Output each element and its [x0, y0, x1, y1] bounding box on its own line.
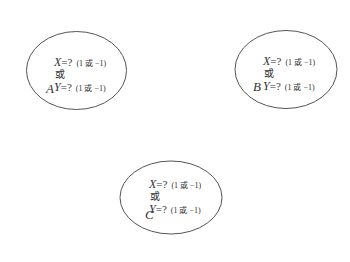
diagram-canvas: [0, 0, 350, 262]
value-hint: (1 或 −1): [171, 206, 201, 215]
node-b-label: B: [253, 79, 261, 95]
y-variable: Y: [263, 79, 270, 93]
node-c-label: C: [145, 207, 154, 223]
node-c-x-row: X=? (1 或 −1): [149, 177, 201, 191]
node-a-text: X=? (1 或 −1) 或 Y=? (1 或 −1): [54, 55, 106, 94]
or-text: 或: [150, 191, 201, 202]
equals-question: =?: [61, 81, 72, 93]
equals-question: =?: [156, 178, 167, 190]
node-c-y-row: Y=? (1 或 −1): [149, 202, 201, 216]
or-text: 或: [264, 68, 315, 79]
node-b-y-row: Y=? (1 或 −1): [263, 79, 315, 93]
value-hint: (1 或 −1): [285, 58, 315, 67]
node-c-text: X=? (1 或 −1) 或 Y=? (1 或 −1): [149, 177, 201, 216]
equals-question: =?: [270, 55, 281, 67]
node-b-text: X=? (1 或 −1) 或 Y=? (1 或 −1): [263, 54, 315, 93]
node-a-label: A: [46, 81, 54, 97]
equals-question: =?: [61, 56, 72, 68]
value-hint: (1 或 −1): [171, 181, 201, 190]
y-variable: Y: [54, 80, 61, 94]
node-a-x-row: X=? (1 或 −1): [54, 55, 106, 69]
value-hint: (1 或 −1): [285, 83, 315, 92]
equals-question: =?: [156, 203, 167, 215]
equals-question: =?: [270, 80, 281, 92]
value-hint: (1 或 −1): [76, 59, 106, 68]
or-text: 或: [55, 69, 106, 80]
value-hint: (1 或 −1): [76, 84, 106, 93]
node-b-x-row: X=? (1 或 −1): [263, 54, 315, 68]
node-a-y-row: Y=? (1 或 −1): [54, 80, 106, 94]
